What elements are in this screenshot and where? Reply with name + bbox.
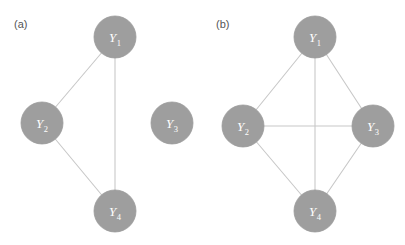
panel-label-a: (a) bbox=[14, 18, 27, 30]
node-y3: Y3 bbox=[151, 102, 193, 144]
node-label-subscript: 2 bbox=[245, 127, 249, 137]
node-label-subscript: 1 bbox=[117, 38, 121, 48]
node-y4: Y4 bbox=[294, 190, 336, 232]
node-label-subscript: 3 bbox=[174, 124, 178, 134]
panel-label-b: (b) bbox=[216, 18, 229, 30]
node-label-subscript: 3 bbox=[375, 127, 379, 137]
node-label-subscript: 4 bbox=[317, 212, 322, 222]
node-label-subscript: 1 bbox=[317, 38, 321, 48]
graph-figure: Y1Y2Y3Y4(a)Y1Y2Y3Y4(b) bbox=[0, 0, 405, 245]
node-y3: Y3 bbox=[352, 105, 394, 147]
node-y2: Y2 bbox=[21, 102, 63, 144]
node-y2: Y2 bbox=[222, 105, 264, 147]
node-label-subscript: 2 bbox=[44, 124, 48, 134]
node-label-subscript: 4 bbox=[117, 212, 122, 222]
node-y1: Y1 bbox=[94, 16, 136, 58]
node-y4: Y4 bbox=[94, 190, 136, 232]
node-y1: Y1 bbox=[294, 16, 336, 58]
